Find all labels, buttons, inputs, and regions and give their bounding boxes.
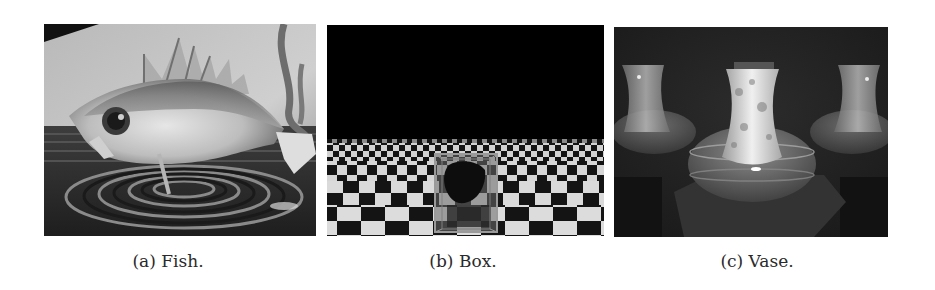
subfigure-fish-image	[44, 24, 316, 236]
subfigure-box-caption: (b) Box.	[429, 253, 496, 270]
subfigure-vase-image	[614, 27, 888, 237]
box-scene-render	[327, 25, 604, 236]
subfigure-box-image	[327, 25, 604, 236]
fish-scene-render	[44, 24, 316, 236]
vase-scene-render	[614, 27, 888, 237]
subfigure-fish-caption: (a) Fish.	[132, 253, 203, 270]
subfigure-vase-caption: (c) Vase.	[720, 253, 793, 270]
